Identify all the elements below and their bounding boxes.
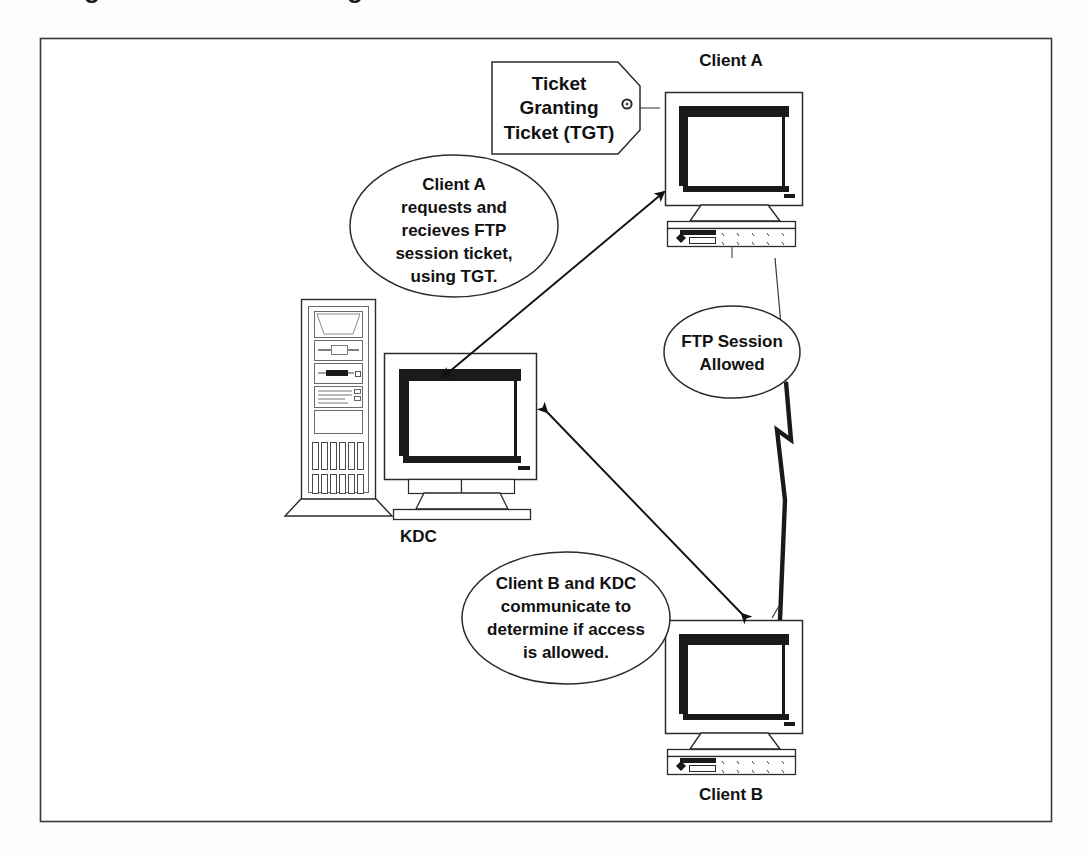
kdc-label: KDC [400, 527, 437, 546]
kerberos-diagram: Ticket Granting Ticket (TGT) Client A [0, 0, 1090, 853]
kdc-tower [285, 300, 392, 517]
callout-ftp-session: FTP Session Allowed [664, 306, 800, 398]
callout-2-line-2: Allowed [699, 355, 764, 374]
client-a-power-led [784, 194, 795, 198]
figure-border [41, 39, 1052, 822]
callout-3-line-2: communicate to [501, 597, 631, 616]
tag-line-1: Ticket [532, 73, 587, 94]
client-b-spacebar [690, 766, 716, 772]
callout-3-line-3: determine if access [487, 620, 645, 639]
ticket-granting-ticket-tag: Ticket Granting Ticket (TGT) [492, 62, 640, 154]
client-a-spacebar [690, 238, 716, 244]
client-b-monitor-stand [690, 733, 780, 749]
callout-1-line-1: Client A [422, 175, 486, 194]
callout-2-line-1: FTP Session [681, 332, 783, 351]
client-a-monitor-stand [690, 205, 780, 221]
callout-client-b-kdc: Client B and KDC communicate to determin… [462, 552, 670, 684]
callout-1-line-2: requests and [401, 198, 507, 217]
client-b-power-led [784, 722, 795, 726]
client-a-label: Client A [699, 51, 763, 70]
tag-line-2: Granting [519, 97, 598, 118]
callout-1-line-3: recieves FTP [402, 221, 507, 240]
client-b-keyboard-top [668, 750, 796, 757]
client-a-keyboard-bar [680, 230, 716, 235]
figure-container: Figure 5-3 Kerberos logon Ticket Grantin… [0, 0, 1090, 853]
callout-1-line-5: using TGT. [411, 267, 498, 286]
client-b-screen [688, 645, 782, 714]
client-a-screen [688, 117, 782, 186]
client-b-label: Client B [699, 785, 763, 804]
tag-line-3: Ticket (TGT) [504, 122, 615, 143]
client-a-keyboard-top [668, 222, 796, 229]
client-b-keyboard-bar [680, 758, 716, 763]
callout-3-line-1: Client B and KDC [496, 574, 637, 593]
callout-3-line-4: is allowed. [523, 643, 609, 662]
callout-1-line-4: session ticket, [395, 244, 512, 263]
callout-client-a-request: Client A requests and recieves FTP sessi… [350, 155, 558, 297]
